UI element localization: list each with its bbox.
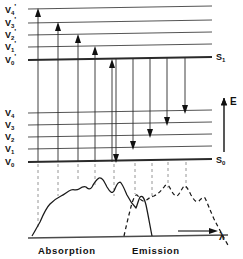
energy-axis-label: E [230,96,237,107]
jablonski-figure: V4' V3' V2' V1' V0' V4 V3 V2 V1 V0 [0,0,243,259]
caption-absorption: Absorption [38,245,96,256]
caption-emission: Emission [132,245,180,256]
lambda-axis-label: λ [219,231,225,242]
figure-canvas: V4' V3' V2' V1' V0' V4 V3 V2 V1 V0 [0,0,243,259]
figure-background [0,0,243,259]
